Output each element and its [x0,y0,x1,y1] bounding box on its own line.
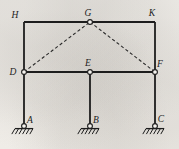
node-label-C: C [158,114,165,124]
support-A-hatch [26,129,29,135]
member-dg-brace [24,22,90,72]
node-marker-E [88,70,93,75]
node-label-G: G [85,8,92,18]
labels-layer: HGKDEFABC [9,8,165,125]
node-label-E: E [84,58,91,68]
support-A-hatch [12,129,15,135]
supports-layer [12,129,164,135]
support-B-hatch [89,129,92,135]
support-C-hatch [143,129,146,135]
support-C [143,129,164,135]
support-B-hatch [81,129,84,135]
node-label-H: H [11,10,20,20]
support-C-hatch [150,129,153,135]
node-marker-C [153,124,158,129]
support-A-hatch [19,129,22,135]
support-B-hatch [78,129,81,135]
node-label-B: B [93,115,99,125]
support-A-hatch [23,129,26,135]
support-B [78,129,99,135]
support-B-hatch [85,129,88,135]
node-label-K: K [148,8,156,18]
node-marker-B [88,124,93,129]
support-A-hatch [30,129,33,135]
support-A [12,129,33,135]
node-marker-G [88,20,93,25]
node-marker-A [22,124,27,129]
node-label-F: F [156,59,163,69]
support-C-hatch [161,129,164,135]
structural-frame-figure: HGKDEFABC [0,0,179,149]
support-C-hatch [146,129,149,135]
frame-diagram-canvas: HGKDEFABC [0,0,179,149]
support-C-hatch [154,129,157,135]
support-B-hatch [96,129,99,135]
support-B-hatch [92,129,95,135]
node-marker-F [153,70,158,75]
node-label-A: A [26,115,33,125]
node-marker-D [22,70,27,75]
support-A-hatch [15,129,18,135]
member-gf-brace [90,22,155,72]
support-C-hatch [157,129,160,135]
node-label-D: D [9,67,17,77]
